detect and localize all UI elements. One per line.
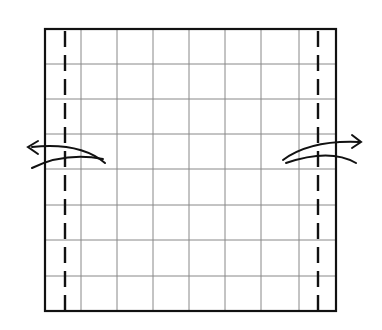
fold-arrow-left-icon xyxy=(28,141,105,168)
fold-arrow-right-icon xyxy=(283,135,361,163)
fold-diagram xyxy=(0,0,382,330)
paper-sheet xyxy=(45,29,336,311)
fold-lines xyxy=(65,31,318,311)
diagram-canvas xyxy=(0,0,382,330)
grid-lines xyxy=(45,29,336,311)
